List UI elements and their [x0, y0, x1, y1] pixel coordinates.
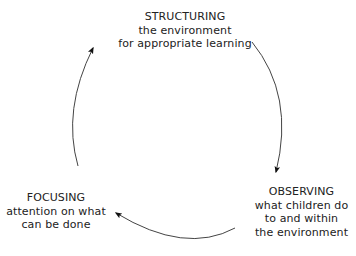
node-focusing: FOCUSING attention on what can be done: [2, 191, 110, 232]
node-focusing-line-1: attention on what: [2, 205, 110, 219]
node-focusing-title: FOCUSING: [2, 191, 110, 205]
node-observing: OBSERVING what children do to and within…: [247, 185, 356, 239]
arrow-observing-to-focusing: [116, 213, 235, 239]
arrow-structuring-to-observing: [252, 42, 282, 172]
node-observing-line-3: the environment: [247, 226, 356, 240]
arrow-focusing-to-structuring: [73, 48, 93, 166]
node-structuring-line-2: for appropriate learning: [100, 37, 270, 51]
node-focusing-line-2: can be done: [2, 218, 110, 232]
node-observing-line-1: what children do: [247, 199, 356, 213]
node-structuring-title: STRUCTURING: [100, 10, 270, 24]
node-structuring-line-1: the environment: [100, 24, 270, 38]
node-observing-title: OBSERVING: [247, 185, 356, 199]
node-observing-line-2: to and within: [247, 212, 356, 226]
node-structuring: STRUCTURING the environment for appropri…: [100, 10, 270, 51]
